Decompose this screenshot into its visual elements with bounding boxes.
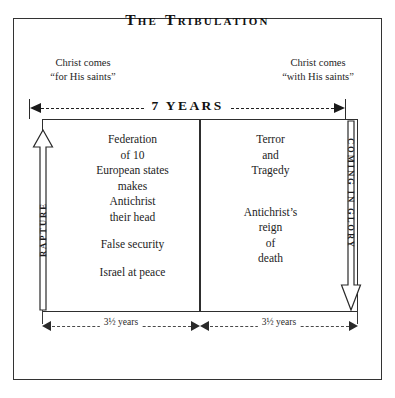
- right-group-antichrist-reign-of-death: Antichrist’s reign of death: [200, 205, 341, 267]
- seven-years-right-arrowhead-icon: [334, 103, 345, 113]
- tribulation-chart-box: Federation of 10 European states makes A…: [42, 119, 358, 312]
- caption-christ-comes-for-his-saints: Christ comes “for His saints”: [18, 56, 148, 84]
- rapture-label: RAPTURE: [32, 170, 54, 290]
- rapture-arrow: RAPTURE: [32, 128, 54, 312]
- caption-right-line1: Christ comes: [253, 56, 383, 70]
- caption-christ-comes-with-his-saints: Christ comes “with His saints”: [253, 56, 383, 84]
- caption-left-line1: Christ comes: [18, 56, 148, 70]
- title-word-the: The: [125, 11, 158, 28]
- half-period-measures: 3½ years 3½ years: [42, 318, 358, 334]
- seven-years-span-arrow: 7 YEARS: [29, 99, 346, 119]
- coming-in-glory-label: COMING IN GLORY: [340, 127, 362, 259]
- measure-first-left-arrowhead-icon: [42, 321, 51, 331]
- coming-in-glory-arrow: COMING IN GLORY: [340, 119, 362, 312]
- panel-second-half: Terror and Tragedy Antichrist’s reign of…: [200, 120, 357, 311]
- measure-second-right-arrowhead-icon: [349, 321, 358, 331]
- left-group-federation: Federation of 10 European states makes A…: [65, 132, 200, 225]
- left-group-false-security: False security: [65, 237, 200, 253]
- right-group-terror-and-tragedy: Terror and Tragedy: [200, 132, 341, 179]
- title-word-tribulation: Tribulation: [165, 11, 270, 28]
- measure-first-half: 3½ years: [42, 318, 200, 334]
- measure-first-label: 3½ years: [100, 317, 142, 327]
- seven-years-label: 7 YEARS: [144, 98, 230, 114]
- caption-right-line2: “with His saints”: [253, 70, 383, 84]
- page-title: TheTribulation: [0, 11, 395, 29]
- seven-years-left-arrowhead-icon: [30, 103, 41, 113]
- measure-second-half: 3½ years: [200, 318, 358, 334]
- measure-first-right-arrowhead-icon: [191, 321, 200, 331]
- measure-second-label: 3½ years: [258, 317, 300, 327]
- caption-left-line2: “for His saints”: [18, 70, 148, 84]
- left-group-israel-at-peace: Israel at peace: [65, 265, 200, 281]
- panel-first-half: Federation of 10 European states makes A…: [43, 120, 200, 311]
- measure-second-left-arrowhead-icon: [200, 321, 209, 331]
